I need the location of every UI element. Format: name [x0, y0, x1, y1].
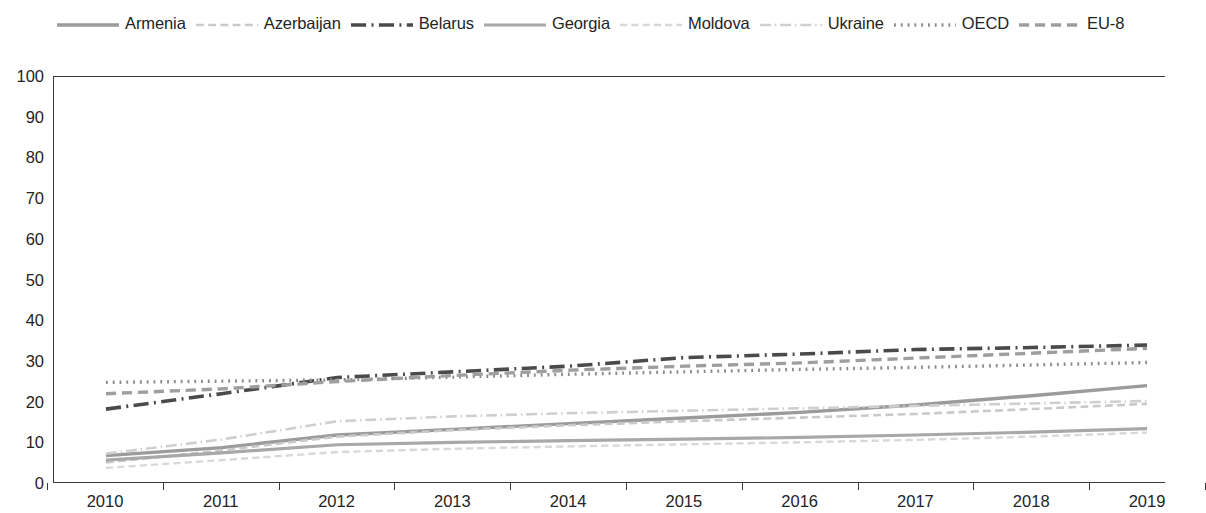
y-axis-tick-label: 80: [26, 148, 44, 167]
x-axis-tick-label: 2013: [434, 492, 471, 511]
x-axis-tick-mark: [742, 483, 743, 490]
x-axis-tick-mark: [47, 483, 48, 490]
y-axis-tick-label: 90: [26, 107, 44, 126]
x-axis-tick-label: 2017: [897, 492, 934, 511]
legend-swatch-oecd-icon: [894, 17, 956, 29]
legend-swatch-eu-8-icon: [1019, 17, 1081, 29]
y-axis-tick-label: 100: [16, 67, 44, 86]
legend-label: Georgia: [552, 14, 610, 33]
x-axis-tick-mark: [1089, 483, 1090, 490]
legend-item-georgia[interactable]: Georgia: [484, 14, 610, 33]
legend-item-azerbaijan[interactable]: Azerbaijan: [196, 14, 341, 33]
x-axis-tick-label: 2019: [1129, 492, 1166, 511]
x-axis-tick-label: 2014: [550, 492, 587, 511]
x-axis: 2010201120122013201420152016201720182019: [53, 483, 1165, 513]
y-axis: 0102030405060708090100: [0, 76, 53, 483]
legend-label: Azerbaijan: [264, 14, 341, 33]
y-axis-tick-label: 70: [26, 189, 44, 208]
x-axis-tick-mark: [858, 483, 859, 490]
x-axis-tick-mark: [394, 483, 395, 490]
x-axis-tick-label: 2010: [87, 492, 124, 511]
y-axis-tick-label: 10: [26, 433, 44, 452]
x-axis-tick-label: 2012: [318, 492, 355, 511]
x-axis-tick-mark: [510, 483, 511, 490]
y-axis-tick-label: 30: [26, 351, 44, 370]
x-axis-tick-label: 2015: [666, 492, 703, 511]
plot-area: [53, 76, 1165, 483]
legend-item-moldova[interactable]: Moldova: [620, 14, 750, 33]
series-line-oecd: [106, 363, 1147, 383]
y-axis-tick-label: 60: [26, 229, 44, 248]
legend-item-belarus[interactable]: Belarus: [351, 14, 474, 33]
legend-item-ukraine[interactable]: Ukraine: [760, 14, 884, 33]
legend-label: Belarus: [419, 14, 474, 33]
legend-swatch-azerbaijan-icon: [196, 17, 258, 29]
y-axis-tick-label: 0: [35, 474, 44, 493]
y-axis-tick-label: 20: [26, 392, 44, 411]
plot-lines: [54, 77, 1165, 482]
x-axis-tick-label: 2018: [1013, 492, 1050, 511]
legend-label: EU-8: [1087, 14, 1124, 33]
x-axis-tick-mark: [626, 483, 627, 490]
x-axis-tick-mark: [279, 483, 280, 490]
x-axis-tick-mark: [163, 483, 164, 490]
legend-swatch-armenia-icon: [57, 17, 119, 29]
legend-item-eu-8[interactable]: EU-8: [1019, 14, 1124, 33]
legend-label: Moldova: [688, 14, 750, 33]
legend-item-armenia[interactable]: Armenia: [57, 14, 186, 33]
legend-swatch-georgia-icon: [484, 17, 546, 29]
series-line-eu-8: [106, 348, 1147, 393]
legend-swatch-belarus-icon: [351, 17, 413, 29]
x-axis-tick-mark: [973, 483, 974, 490]
y-axis-tick-label: 40: [26, 311, 44, 330]
legend-label: Ukraine: [828, 14, 884, 33]
legend-item-oecd[interactable]: OECD: [894, 14, 1009, 33]
x-axis-tick-label: 2011: [203, 492, 238, 511]
legend-swatch-ukraine-icon: [760, 17, 822, 29]
legend-swatch-moldova-icon: [620, 17, 682, 29]
chart-legend: ArmeniaAzerbaijanBelarusGeorgiaMoldovaUk…: [0, 0, 1165, 46]
legend-label: OECD: [962, 14, 1009, 33]
legend-label: Armenia: [125, 14, 186, 33]
x-axis-tick-label: 2016: [781, 492, 818, 511]
y-axis-tick-label: 50: [26, 270, 44, 289]
